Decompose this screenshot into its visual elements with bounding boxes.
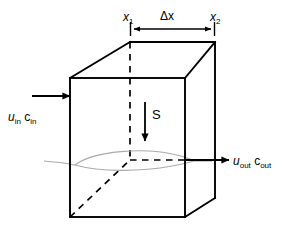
edge-bottom-right-diagonal (185, 198, 215, 217)
plume-upper-arc (75, 151, 194, 165)
dimension-annotation (131, 22, 215, 36)
label-inflow: uin cin (8, 108, 37, 124)
edge-top-right-diagonal (185, 42, 215, 78)
label-outflow-velocity-subscript: out (240, 161, 251, 170)
label-inflow-concentration-subscript: in (30, 117, 36, 126)
control-volume-svg (0, 0, 297, 232)
diagram-canvas: x1 x2 Δx S uin cin uout cout (0, 0, 297, 232)
edge-bottom-left-diagonal (70, 160, 130, 217)
label-inflow-velocity-subscript: in (15, 117, 21, 126)
label-outflow-concentration-subscript: out (260, 161, 271, 170)
edge-top-left-diagonal (70, 42, 130, 78)
label-outflow: uout cout (233, 152, 271, 168)
label-x2-subscript: 2 (216, 17, 220, 26)
label-outflow-velocity-symbol: u (233, 154, 240, 168)
label-x1: x1 (123, 8, 133, 24)
label-inflow-velocity-symbol: u (8, 110, 15, 124)
face-front (70, 78, 185, 217)
cube-visible-edges (70, 42, 215, 217)
label-x2: x2 (210, 8, 220, 24)
plume-lower-arc (75, 161, 194, 170)
label-delta-x: Δx (160, 10, 174, 22)
label-settling-flux: S (152, 108, 161, 121)
label-x1-subscript: 1 (129, 17, 133, 26)
